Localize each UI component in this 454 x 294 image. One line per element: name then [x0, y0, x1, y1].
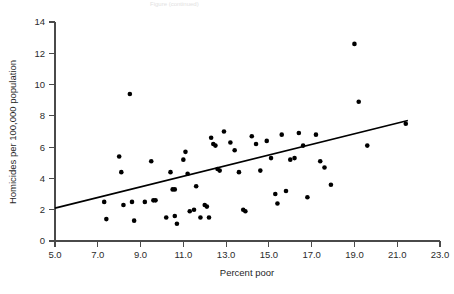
data-point [275, 201, 280, 206]
x-tick-label: 19.0 [345, 249, 364, 260]
data-point [322, 165, 327, 170]
x-tick-label: 5.0 [48, 249, 61, 260]
data-point [243, 209, 248, 214]
data-point [365, 143, 370, 148]
data-point [329, 182, 334, 187]
y-tick-label: 8 [40, 110, 45, 121]
data-point [254, 142, 259, 147]
data-point [187, 209, 192, 214]
data-point [121, 203, 126, 208]
data-point [181, 157, 186, 162]
data-point [232, 148, 237, 153]
x-tick-label: 21.0 [388, 249, 407, 260]
data-point [222, 129, 227, 134]
x-axis-title: Percent poor [220, 267, 274, 278]
data-point [164, 215, 169, 220]
data-point [153, 198, 158, 203]
data-point [175, 221, 180, 226]
data-point [213, 143, 218, 148]
data-point [209, 135, 214, 140]
x-axis-ticks: 5.07.09.011.013.015.017.019.021.023.0 [48, 241, 449, 260]
data-point [128, 92, 133, 97]
data-point [217, 168, 222, 173]
data-point [207, 215, 212, 220]
y-tick-label: 0 [40, 235, 45, 246]
data-point [198, 215, 203, 220]
x-tick-label: 17.0 [302, 249, 321, 260]
data-point [205, 204, 210, 209]
data-point [292, 156, 297, 161]
data-point [269, 156, 274, 161]
x-tick-label: 13.0 [217, 249, 236, 260]
data-point [149, 159, 154, 164]
data-point [143, 200, 148, 205]
data-point [183, 150, 188, 155]
data-point [132, 218, 137, 223]
data-points-group [102, 42, 408, 226]
x-tick-label: 15.0 [260, 249, 279, 260]
data-point [168, 170, 173, 175]
data-point [194, 184, 199, 189]
data-point [264, 139, 269, 144]
y-tick-label: 10 [34, 79, 45, 90]
y-tick-label: 4 [40, 173, 45, 184]
data-point [249, 134, 254, 139]
data-point [237, 170, 242, 175]
data-point [314, 132, 319, 137]
y-tick-label: 14 [34, 16, 45, 27]
y-axis-title: Homicides per 100,000 population [7, 60, 18, 204]
x-tick-label: 7.0 [91, 249, 104, 260]
axes-group [55, 22, 440, 241]
data-point [119, 170, 124, 175]
data-point [273, 192, 278, 197]
data-point [172, 214, 177, 219]
data-point [228, 140, 233, 145]
scatter-plot-figure: Figure (continued) 02468101214 5.07.09.0… [0, 0, 454, 294]
data-point [288, 157, 293, 162]
x-tick-label: 9.0 [134, 249, 147, 260]
data-point [352, 42, 357, 47]
data-point [117, 154, 122, 159]
figure-caption: Figure (continued) [150, 1, 199, 7]
y-tick-label: 12 [34, 48, 45, 59]
data-point [192, 207, 197, 212]
data-point [172, 187, 177, 192]
x-tick-label: 23.0 [431, 249, 450, 260]
data-point [305, 195, 310, 200]
data-point [130, 200, 135, 205]
figure-caption-group: Figure (continued) [150, 1, 199, 7]
regression-line-group [55, 121, 408, 209]
y-tick-label: 6 [40, 142, 45, 153]
x-tick-label: 11.0 [174, 249, 192, 260]
regression-line [55, 121, 408, 209]
data-point [258, 168, 263, 173]
y-tick-label: 2 [40, 204, 45, 215]
data-point [356, 99, 361, 104]
y-axis-ticks: 02468101214 [34, 16, 55, 246]
data-point [279, 132, 284, 137]
chart-canvas: Figure (continued) 02468101214 5.07.09.0… [0, 0, 454, 294]
data-point [297, 131, 302, 136]
data-point [318, 159, 323, 164]
data-point [102, 200, 107, 205]
data-point [104, 217, 109, 222]
data-point [284, 189, 289, 194]
